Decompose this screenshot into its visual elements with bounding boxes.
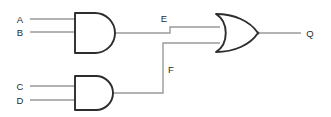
label-input-d: D [17,95,24,106]
wire-net-f [113,43,220,93]
and-gate-2-body [75,76,113,110]
pin-labels-group: A B C D Q [17,14,314,106]
label-net-e: E [161,13,167,24]
gate-and-2[interactable] [75,76,113,110]
or-gate-body [216,14,258,52]
label-net-f: F [168,64,174,75]
input-wires-group [30,19,75,100]
gate-and-1[interactable] [75,13,115,53]
logic-circuit-diagram: A B C D Q E F [0,0,331,117]
label-input-a: A [17,14,24,25]
net-wires-group [113,27,301,93]
wire-net-e [113,27,220,33]
label-output-q: Q [306,28,313,39]
gate-or-1[interactable] [216,14,258,52]
circuit-svg-canvas: A B C D Q E F [0,0,331,117]
label-input-c: C [17,81,24,92]
and-gate-1-body [75,13,115,53]
label-input-b: B [17,27,23,38]
